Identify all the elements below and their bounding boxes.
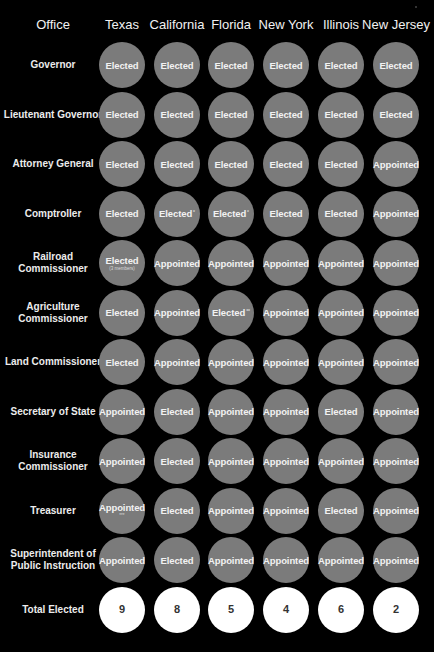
status-value: Appointed: [373, 357, 419, 368]
status-value: Appointed: [373, 456, 419, 467]
status-text: Appointed: [263, 555, 309, 566]
total-value: 9: [119, 604, 125, 615]
status-value: Appointed: [208, 456, 254, 467]
status-cell-elected: Elected: [99, 339, 145, 385]
status-cell-elected: Elected: [318, 488, 364, 534]
status-text: Appointed: [208, 258, 254, 269]
status-value: Elected: [324, 109, 357, 120]
status-value: Elected: [160, 109, 193, 120]
status-text: Appointed: [263, 456, 309, 467]
status-text: Appointed: [208, 406, 254, 417]
status-text: Appointed: [373, 406, 419, 417]
status-text: Elected: [324, 208, 357, 219]
status-value: Elected: [213, 208, 246, 219]
status-value: Appointed: [373, 406, 419, 417]
status-cell-appointed: Appointed: [263, 488, 309, 534]
status-cell-elected: Elected: [263, 191, 309, 237]
status-cell-elected: Elected: [154, 389, 200, 435]
status-value: Elected: [105, 109, 138, 120]
status-value: Appointed: [373, 208, 419, 219]
status-cell-appointed: Appointed: [318, 240, 364, 286]
status-text: Appointed: [373, 258, 419, 269]
status-cell-appointed: Appointed: [373, 290, 419, 336]
status-text: Elected: [324, 505, 357, 516]
status-value: Elected: [214, 159, 247, 170]
status-text: Appointed: [154, 307, 200, 318]
status-value: Appointed: [208, 505, 254, 516]
status-text: Appointed: [263, 505, 309, 516]
office-column-header: Office: [18, 17, 88, 32]
total-value: 4: [283, 604, 289, 615]
status-value: Elected: [269, 60, 302, 71]
footnote-mark: *: [193, 209, 195, 215]
status-text: Elected**: [212, 307, 250, 318]
status-cell-elected: Elected: [99, 290, 145, 336]
status-text: Appointed: [373, 208, 419, 219]
status-value: Elected: [324, 505, 357, 516]
status-text: Elected: [324, 60, 357, 71]
status-text: Appointed: [318, 258, 364, 269]
status-value: Appointed: [263, 357, 309, 368]
status-text: Appointed: [99, 555, 145, 566]
status-value: Appointed: [318, 258, 364, 269]
status-value: Appointed: [318, 357, 364, 368]
status-text: Elected: [379, 109, 412, 120]
status-value: Appointed: [208, 406, 254, 417]
status-value: Elected: [324, 159, 357, 170]
status-value: Elected: [105, 60, 138, 71]
status-text: Appointed: [208, 555, 254, 566]
status-cell-appointed: Appointed: [373, 191, 419, 237]
status-cell-appointed: Appointed: [373, 240, 419, 286]
status-text: Appointed: [208, 357, 254, 368]
status-cell-appointed: Appointed: [263, 537, 309, 583]
status-value: Elected: [160, 406, 193, 417]
status-text: Appointed: [373, 307, 419, 318]
status-cell-elected: Elected: [208, 92, 254, 138]
office-label: Railroad Commissioner: [2, 251, 104, 275]
status-text: Elected: [214, 60, 247, 71]
status-value: Appointed: [263, 258, 309, 269]
status-cell-elected: Elected: [154, 92, 200, 138]
status-cell-appointed: Appointed: [99, 537, 145, 583]
status-value: Appointed: [263, 555, 309, 566]
status-value: Elected: [105, 159, 138, 170]
status-cell-elected: Elected: [263, 141, 309, 187]
status-text: Elected: [379, 60, 412, 71]
office-label: Governor: [2, 59, 104, 71]
status-value: Elected: [212, 307, 245, 318]
status-cell-elected: Elected: [318, 389, 364, 435]
office-label: Agriculture Commissioner: [2, 301, 104, 325]
status-cell-elected: Elected: [263, 92, 309, 138]
status-cell-elected: Elected: [263, 42, 309, 88]
status-cell-appointed: Appointed: [208, 339, 254, 385]
status-value: Appointed: [99, 456, 145, 467]
status-value: Elected: [379, 109, 412, 120]
status-text: Appointed: [154, 357, 200, 368]
status-value: Elected: [105, 208, 138, 219]
status-text: Elected: [105, 109, 138, 120]
status-text: Appointed: [318, 456, 364, 467]
status-text: Elected: [160, 159, 193, 170]
status-text: Appointed: [373, 357, 419, 368]
total-value: 2: [393, 604, 399, 615]
status-value: Appointed: [263, 456, 309, 467]
status-text: Elected: [105, 307, 138, 318]
status-value: Appointed: [373, 505, 419, 516]
total-value: 6: [338, 604, 344, 615]
cell-note: (3 members): [109, 266, 135, 272]
status-text: Appointed: [154, 258, 200, 269]
status-cell-elected: Elected: [318, 92, 364, 138]
status-text: Appointed: [318, 555, 364, 566]
status-cell-appointed: Appointed: [154, 240, 200, 286]
status-value: Appointed: [208, 357, 254, 368]
status-cell-elected: Elected: [318, 42, 364, 88]
status-value: Appointed: [154, 307, 200, 318]
total-elected-cell: 9: [99, 587, 145, 633]
footnote-mark: **: [246, 308, 250, 314]
status-cell-elected: Elected: [154, 141, 200, 187]
status-cell-elected: Elected: [154, 488, 200, 534]
status-text: Appointed: [318, 357, 364, 368]
status-value: Appointed: [263, 406, 309, 417]
status-cell-appointed: Appointed: [318, 438, 364, 484]
status-cell-appointed: Appointed: [373, 537, 419, 583]
